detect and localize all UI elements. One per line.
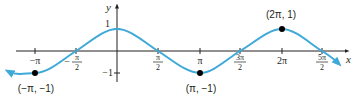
point-neg-pi [32, 70, 38, 76]
x-tick-label-neg-pi-over-2: − π 2 [64, 53, 82, 72]
point-label-pi: (π, −1) [186, 83, 217, 94]
x-tick-label-pi-over-2: π 2 [153, 53, 163, 72]
point-label-2pi: (2π, 1) [266, 9, 296, 20]
svg-text:π: π [156, 53, 160, 62]
y-tick-label-1: 1 [105, 18, 110, 29]
svg-text:2: 2 [320, 63, 324, 72]
x-tick-label-5pi-over-2: 5π 2 [316, 53, 328, 72]
y-tick-label-neg1: −1 [102, 67, 113, 78]
svg-text:5π: 5π [318, 53, 326, 62]
point-2pi [279, 26, 285, 32]
x-tick-label-pi: π [197, 55, 202, 66]
svg-text:2: 2 [156, 63, 160, 72]
point-label-neg-pi: (−π, −1) [18, 83, 54, 94]
cosine-curve [9, 29, 338, 74]
svg-text:3π: 3π [236, 53, 244, 62]
cosine-graph: x y 1 −1 −π − π 2 π 2 π 3π 2 2π 5π [0, 0, 357, 102]
svg-text:π: π [75, 53, 79, 62]
x-tick-label-3pi-over-2: 3π 2 [234, 53, 246, 72]
x-tick-label-2pi: 2π [277, 55, 287, 66]
y-axis-label: y [105, 1, 111, 13]
svg-text:2: 2 [75, 63, 79, 72]
svg-text:2: 2 [238, 63, 242, 72]
x-axis-label: x [345, 53, 351, 65]
point-pi [197, 70, 203, 76]
x-tick-label-neg-pi: −π [30, 55, 41, 66]
